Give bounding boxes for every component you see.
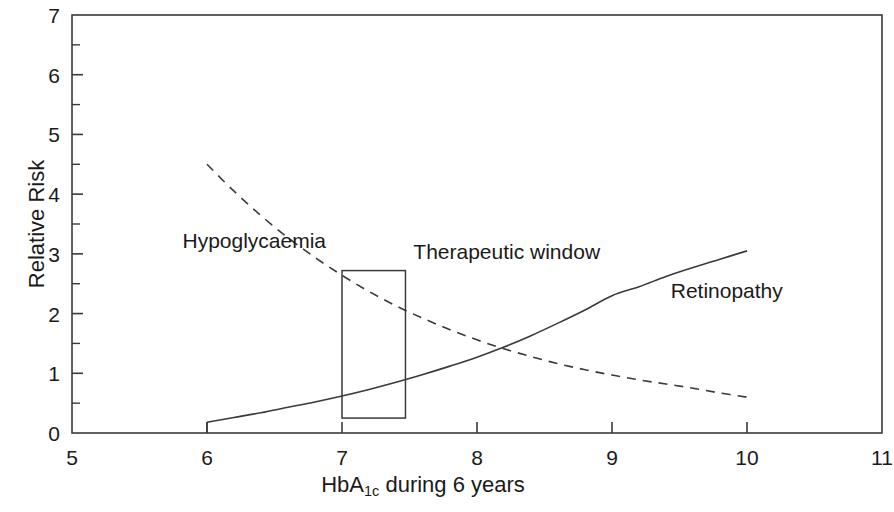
x-axis-tick-label: 8 [471,447,483,468]
y-axis-tick-label: 6 [36,64,60,85]
x-axis-tick-label: 9 [606,447,618,468]
series-line-hypoglycaemia [207,164,747,397]
chart-figure: 56789101101234567 HbA1c during 6 years R… [0,0,894,512]
y-axis-tick-label: 2 [36,303,60,324]
x-axis-title-base: HbA [321,472,364,497]
y-axis-tick-label: 7 [36,5,60,26]
x-axis-title-subscript: 1c [364,483,379,499]
y-axis-tick-label: 0 [36,423,60,444]
y-axis-tick-label: 1 [36,363,60,384]
x-axis-tick-label: 10 [735,447,758,468]
series-line-retinopathy [207,251,747,422]
annotation-label-therapeutic-window: Therapeutic window [413,240,600,261]
x-axis-tick-label: 6 [201,447,213,468]
y-axis-tick-label: 5 [36,124,60,145]
y-axis-title: Relative Risk [26,160,48,288]
x-axis-tick-label: 5 [66,447,78,468]
x-axis-tick-label: 7 [336,447,348,468]
series-label-retinopathy: Retinopathy [671,279,783,300]
x-axis-tick-label: 11 [871,447,893,468]
series-label-hypoglycaemia: Hypoglycaemia [182,230,326,251]
x-axis-title-tail: during 6 years [379,472,525,497]
x-axis-title: HbA1c during 6 years [321,474,525,499]
plot-frame [72,15,882,433]
therapeutic-window-box [342,271,405,418]
